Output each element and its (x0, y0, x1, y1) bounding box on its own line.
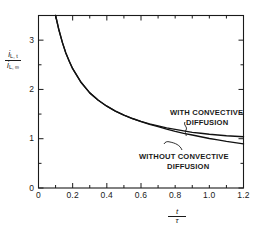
y-tick-label: 1 (20, 133, 34, 143)
leader-without-convective (164, 142, 182, 150)
y-num-sub: L, t (10, 53, 18, 59)
x-num: t (168, 208, 186, 216)
x-tick-label: 1.0 (197, 190, 221, 200)
y-tick-label: 3 (20, 35, 34, 45)
x-den: τ (168, 216, 186, 225)
annotation-with-line2: DIFFUSION (186, 118, 256, 128)
annotation-without-line1: WITHOUT CONVECTIVE (139, 152, 249, 162)
x-axis-title: t τ (168, 208, 192, 226)
x-tick-label: 0.2 (61, 190, 85, 200)
y-tick-label: 2 (20, 84, 34, 94)
annotation-with-convective-diffusion: WITH CONVECTIVE DIFFUSION (170, 108, 256, 127)
figure: 00.20.40.60.81.01.2 0123 iL, t iL, ∞ t τ… (0, 0, 256, 230)
y-den-sub: L, ∞ (9, 64, 19, 70)
annotation-without-line2: DIFFUSION (167, 162, 249, 172)
annotation-without-convective-diffusion: WITHOUT CONVECTIVE DIFFUSION (139, 152, 249, 171)
x-tick-label: 0.4 (95, 190, 119, 200)
annotation-with-line1: WITH CONVECTIVE (170, 108, 256, 118)
x-tick-label: 0.8 (163, 190, 187, 200)
x-tick-label: 0.6 (129, 190, 153, 200)
y-axis-title: iL, t iL, ∞ (5, 50, 21, 71)
x-tick-label: 1.2 (232, 190, 256, 200)
y-tick-label: 0 (20, 183, 34, 193)
